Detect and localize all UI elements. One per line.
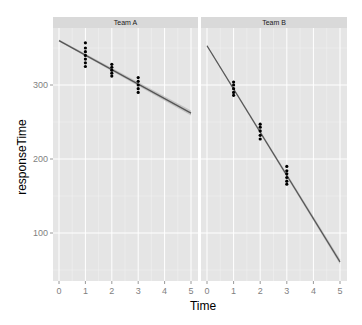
data-point (110, 72, 113, 75)
data-point (259, 129, 262, 132)
x-tick-label: 1 (83, 286, 88, 296)
x-tick-label: 0 (56, 286, 61, 296)
x-tick-label: 4 (311, 286, 316, 296)
data-point (285, 180, 288, 183)
data-point (137, 80, 140, 83)
data-point (110, 69, 113, 72)
x-tick-label: 0 (204, 286, 209, 296)
x-axis: 012345012345 (56, 281, 342, 296)
y-tick-label: 200 (33, 154, 48, 164)
faceted-scatter-chart: Team ATeam B 100200300 012345012345 Time… (0, 0, 362, 325)
data-point (285, 176, 288, 179)
data-point (285, 183, 288, 186)
data-point (259, 126, 262, 129)
facet-label: Team B (262, 19, 286, 26)
y-axis-title: responseTime (15, 119, 29, 195)
data-point (285, 169, 288, 172)
facet-strip: Team A (53, 17, 198, 28)
y-tick-label: 100 (33, 228, 48, 238)
data-point (110, 66, 113, 69)
data-point (232, 94, 235, 97)
data-point (259, 137, 262, 140)
data-point (259, 134, 262, 137)
data-point (285, 165, 288, 168)
data-point (84, 61, 87, 64)
x-tick-label: 2 (258, 286, 263, 296)
data-point (110, 75, 113, 78)
data-point (84, 58, 87, 61)
facet-panel-team-b (201, 28, 347, 281)
data-point (232, 91, 235, 94)
data-point (110, 63, 113, 66)
data-point (84, 50, 87, 53)
y-tick-label: 300 (33, 80, 48, 90)
data-point (232, 87, 235, 90)
data-point (137, 76, 140, 79)
data-point (84, 41, 87, 44)
panel-background (53, 28, 198, 281)
data-point (84, 54, 87, 57)
x-axis-title: Time (190, 299, 217, 313)
data-point (232, 83, 235, 86)
x-tick-label: 1 (231, 286, 236, 296)
x-tick-label: 5 (337, 286, 342, 296)
facet-label: Team A (114, 19, 138, 26)
data-point (232, 80, 235, 83)
facet-panel-team-a (53, 28, 198, 281)
data-point (137, 91, 140, 94)
data-point (259, 123, 262, 126)
data-point (137, 83, 140, 86)
x-tick-label: 5 (188, 286, 193, 296)
y-axis: 100200300 (33, 80, 53, 238)
data-point (137, 87, 140, 90)
data-point (84, 46, 87, 49)
x-tick-label: 3 (136, 286, 141, 296)
data-point (84, 65, 87, 68)
facet-strip: Team B (201, 17, 347, 28)
x-tick-label: 3 (284, 286, 289, 296)
data-point (285, 172, 288, 175)
x-tick-label: 4 (162, 286, 167, 296)
x-tick-label: 2 (109, 286, 114, 296)
